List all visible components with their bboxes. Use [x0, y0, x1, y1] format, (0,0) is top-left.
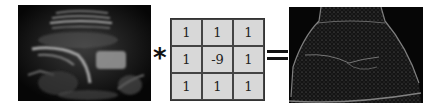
convolution-operator-icon: *	[153, 45, 167, 71]
kernel-cell: 1	[202, 19, 233, 46]
kernel-cell: 1	[171, 46, 202, 73]
ultrasound-input-graphic	[18, 5, 151, 101]
kernel-cell: 1	[171, 19, 202, 46]
kernel-cell-center: -9	[202, 46, 233, 73]
kernel-cell: 1	[202, 73, 233, 100]
kernel-cell: 1	[233, 46, 264, 73]
kernel-cell: 1	[171, 73, 202, 100]
input-ultrasound-image	[18, 5, 151, 101]
output-filtered-image	[289, 7, 423, 103]
kernel-cell: 1	[233, 73, 264, 100]
equals-operator-icon	[267, 48, 288, 62]
ultrasound-output-graphic	[289, 7, 423, 103]
equals-bar-bottom	[267, 57, 288, 60]
kernel-cell: 1	[233, 19, 264, 46]
convolution-kernel-grid: 1 1 1 1 -9 1 1 1 1	[170, 18, 265, 101]
equals-bar-top	[267, 50, 288, 53]
